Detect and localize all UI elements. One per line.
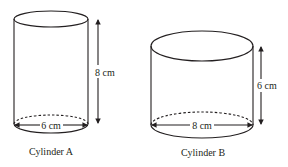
cylinder-b-height-label: 6 cm xyxy=(257,80,277,91)
cylinder-a-diameter-label: 6 cm xyxy=(41,120,61,131)
cylinders-diagram: 6 cm 8 cm Cylinder A 8 cm 6 cm Cylinder … xyxy=(0,0,288,167)
cylinder-a-caption: Cylinder A xyxy=(29,146,74,157)
cylinder-b-top-ellipse xyxy=(151,31,253,61)
cylinder-b-caption: Cylinder B xyxy=(181,147,225,158)
cylinder-a xyxy=(14,11,98,133)
cylinder-b-diameter-label: 8 cm xyxy=(192,120,212,131)
cylinder-a-height-label: 8 cm xyxy=(95,67,115,78)
cylinder-a-top-ellipse xyxy=(14,11,88,27)
